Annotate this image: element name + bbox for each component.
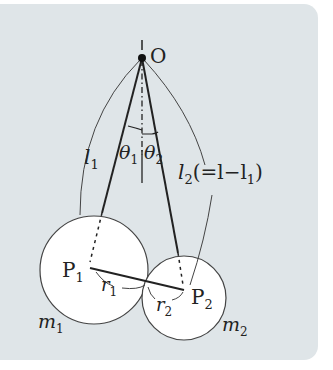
angle-arc-theta1 [128,126,142,130]
label-l2: l2(=l−l1) [178,160,263,187]
sphere-m1 [40,216,148,324]
sphere-m2 [142,256,226,340]
pendulum-diagram: O l1 θ1 θ2 l2(=l−l1) P1 P2 r1 r2 m1 m2 [0,0,333,370]
pivot-point [138,54,146,62]
label-O: O [150,44,166,68]
label-m2: m2 [222,313,248,339]
label-l1: l1 [84,145,99,172]
label-theta2: θ2 [144,141,163,167]
length-arc-l1 [80,60,140,215]
label-m1: m1 [38,310,64,336]
label-theta1: θ1 [119,141,138,167]
